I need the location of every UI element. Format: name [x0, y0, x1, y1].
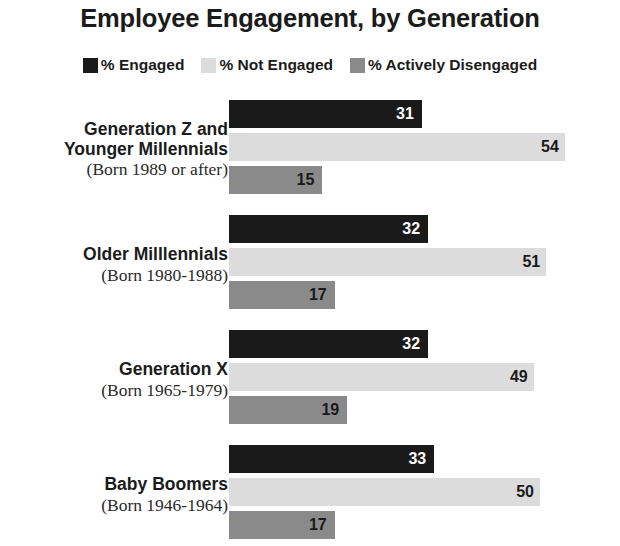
legend-swatch-engaged: [83, 58, 98, 73]
bar-group: Generation X (Born 1965-1979) 32 49 19: [0, 330, 620, 445]
group-label: Baby Boomers (Born 1946-1964): [13, 445, 228, 545]
bar-engaged: 31: [229, 100, 422, 128]
legend-swatch-actively-disengaged: [350, 58, 365, 73]
group-born-line: (Born 1980-1988): [101, 266, 228, 286]
legend-swatch-not-engaged: [201, 58, 216, 73]
legend-item-engaged: % Engaged: [83, 56, 185, 74]
bar-value-actively-disengaged: 17: [309, 517, 327, 533]
group-bars: 33 50 17: [229, 445, 620, 544]
bar-value-actively-disengaged: 19: [321, 402, 339, 418]
group-label: Generation X (Born 1965-1979): [13, 330, 228, 430]
bar-row-not-engaged: 51: [229, 248, 620, 276]
bar-group: Baby Boomers (Born 1946-1964) 33 50 17: [0, 445, 620, 546]
bar-value-engaged: 33: [408, 451, 426, 467]
bar-row-engaged: 31: [229, 100, 620, 128]
bar-row-actively-disengaged: 15: [229, 166, 620, 194]
group-born-line: (Born 1946-1964): [101, 496, 228, 516]
bar-value-not-engaged: 51: [522, 254, 540, 270]
chart-plot-area: Generation Z and Younger Millennials (Bo…: [0, 100, 620, 546]
bar-row-not-engaged: 49: [229, 363, 620, 391]
bar-actively-disengaged: 15: [229, 166, 322, 194]
bar-row-actively-disengaged: 17: [229, 511, 620, 539]
legend-item-not-engaged: % Not Engaged: [201, 56, 333, 74]
bar-value-actively-disengaged: 15: [297, 172, 315, 188]
bar-row-engaged: 32: [229, 215, 620, 243]
group-label: Older Milllennials (Born 1980-1988): [13, 215, 228, 315]
bar-value-not-engaged: 50: [516, 484, 534, 500]
bar-value-not-engaged: 54: [541, 139, 559, 155]
group-bars: 32 51 17: [229, 215, 620, 314]
bar-not-engaged: 51: [229, 248, 546, 276]
group-name-line: Older Milllennials: [83, 245, 228, 265]
chart-root: Employee Engagement, by Generation % Eng…: [0, 0, 620, 546]
bar-group: Older Milllennials (Born 1980-1988) 32 5…: [0, 215, 620, 330]
legend-label-not-engaged: % Not Engaged: [219, 56, 333, 74]
bar-row-actively-disengaged: 17: [229, 281, 620, 309]
legend-label-engaged: % Engaged: [101, 56, 185, 74]
group-name-line: Generation X: [119, 360, 228, 380]
bar-not-engaged: 54: [229, 133, 565, 161]
bar-value-engaged: 32: [402, 221, 420, 237]
bar-row-engaged: 33: [229, 445, 620, 473]
legend-label-actively-disengaged: % Actively Disengaged: [368, 56, 537, 74]
bar-row-engaged: 32: [229, 330, 620, 358]
legend-item-actively-disengaged: % Actively Disengaged: [350, 56, 537, 74]
group-name-line: Generation Z and: [84, 120, 228, 140]
chart-legend: % Engaged % Not Engaged % Actively Disen…: [0, 56, 620, 74]
chart-title: Employee Engagement, by Generation: [0, 4, 620, 33]
bar-row-not-engaged: 54: [229, 133, 620, 161]
group-name-line: Younger Millennials: [64, 140, 228, 160]
bar-engaged: 32: [229, 330, 428, 358]
group-born-line: (Born 1989 or after): [87, 160, 228, 180]
bar-value-engaged: 31: [396, 106, 414, 122]
bar-actively-disengaged: 19: [229, 396, 347, 424]
bar-engaged: 32: [229, 215, 428, 243]
group-born-line: (Born 1965-1979): [101, 381, 228, 401]
bar-actively-disengaged: 17: [229, 511, 335, 539]
bar-row-actively-disengaged: 19: [229, 396, 620, 424]
bar-actively-disengaged: 17: [229, 281, 335, 309]
group-bars: 32 49 19: [229, 330, 620, 429]
bar-value-engaged: 32: [402, 336, 420, 352]
bar-value-actively-disengaged: 17: [309, 287, 327, 303]
group-name-line: Baby Boomers: [104, 475, 228, 495]
bar-not-engaged: 49: [229, 363, 534, 391]
bar-value-not-engaged: 49: [510, 369, 528, 385]
bar-engaged: 33: [229, 445, 434, 473]
group-bars: 31 54 15: [229, 100, 620, 199]
bar-row-not-engaged: 50: [229, 478, 620, 506]
group-label: Generation Z and Younger Millennials (Bo…: [13, 100, 228, 200]
bar-group: Generation Z and Younger Millennials (Bo…: [0, 100, 620, 215]
bar-not-engaged: 50: [229, 478, 540, 506]
